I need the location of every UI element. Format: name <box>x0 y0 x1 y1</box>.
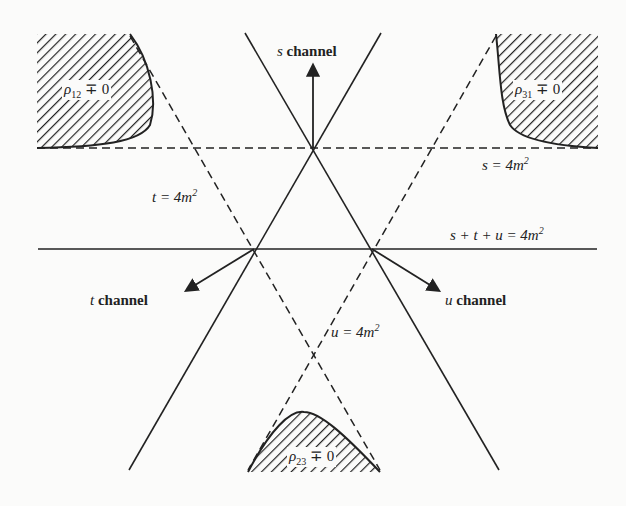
rho12-label: ρ12 ∓ 0 <box>62 80 111 100</box>
t-threshold-label: t = 4m2 <box>152 187 197 206</box>
u-threshold-label: u = 4m2 <box>331 322 379 341</box>
s-channel-label: s channel <box>277 43 337 60</box>
t-channel-label: t channel <box>90 292 148 309</box>
diagram-lines <box>0 0 626 506</box>
s-threshold-label: s = 4m2 <box>482 155 529 174</box>
mandelstam-diagram: s channel t channel u channel s = 4m2 t … <box>0 0 626 506</box>
u-channel-label: u channel <box>445 292 506 309</box>
mass-shell-sum-label: s + t + u = 4m2 <box>450 225 544 244</box>
rho31-label: ρ31 ∓ 0 <box>513 80 562 100</box>
rho23-label: ρ23 ∓ 0 <box>287 447 336 467</box>
